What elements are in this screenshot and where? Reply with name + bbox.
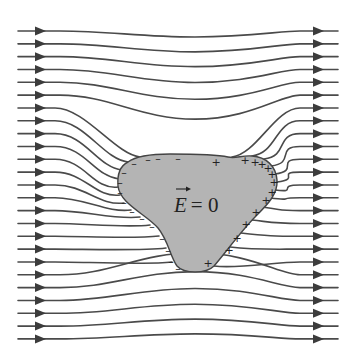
positive-charge-icon: + [241, 218, 250, 231]
arrow-right-icon [313, 180, 324, 189]
arrow-left-icon [35, 52, 46, 61]
negative-charge-icon: – [149, 220, 155, 233]
arrow-left-icon [35, 322, 46, 331]
field-line-right [270, 198, 338, 199]
negative-charge-icon: – [121, 196, 127, 209]
field-line-right [271, 146, 338, 166]
field-line-right [241, 233, 338, 236]
field-line [18, 69, 338, 82]
field-symbol: E [173, 193, 187, 217]
arrow-right-icon [313, 168, 324, 177]
arrow-right-icon [313, 65, 324, 74]
arrow-right-icon [313, 219, 324, 228]
arrow-left-icon [35, 180, 46, 189]
field-line [18, 44, 338, 52]
field-line-right [277, 172, 338, 182]
arrow-right-icon [313, 27, 324, 36]
positive-charge-icon: + [203, 257, 212, 270]
field-equation: E= 0 [173, 193, 218, 217]
arrow-right-icon [313, 116, 324, 125]
positive-charge-icon: + [224, 244, 233, 257]
arrow-right-icon [313, 334, 324, 343]
arrow-right-icon [313, 155, 324, 164]
positive-charge-icon: + [251, 206, 260, 219]
arrow-right-icon [313, 232, 324, 241]
positive-charge-icon: + [240, 154, 249, 167]
arrow-left-icon [35, 206, 46, 215]
negative-charge-icon: – [155, 152, 161, 165]
arrow-left-icon [35, 116, 46, 125]
positive-charge-icon: + [211, 156, 220, 169]
field-line [18, 304, 338, 313]
arrow-right-icon [313, 129, 324, 138]
arrow-right-icon [313, 52, 324, 61]
field-value: = 0 [191, 193, 219, 217]
arrow-left-icon [35, 309, 46, 318]
field-line-right [262, 207, 338, 211]
arrow-right-icon [313, 91, 324, 100]
negative-charge-icon: – [159, 232, 165, 245]
field-line-right [252, 121, 338, 156]
arrow-left-icon [35, 296, 46, 305]
negative-charge-icon: – [168, 255, 174, 268]
field-line [18, 31, 338, 37]
arrow-left-icon [35, 283, 46, 292]
arrow-left-icon [35, 232, 46, 241]
arrow-right-icon [313, 270, 324, 279]
arrow-left-icon [35, 27, 46, 36]
arrow-right-icon [313, 78, 324, 87]
arrow-right-icon [313, 283, 324, 292]
negative-charge-icon: – [175, 262, 181, 275]
arrow-right-icon [313, 257, 324, 266]
negative-charge-icon: – [145, 153, 151, 166]
arrow-left-icon [35, 39, 46, 48]
arrow-left-icon [35, 155, 46, 164]
arrow-right-icon [313, 142, 324, 151]
arrow-right-icon [313, 193, 324, 202]
arrow-right-icon [313, 206, 324, 215]
electric-field-diagram: –––––––––––––––++++++++++++++ E= 0 [0, 0, 354, 364]
arrow-left-icon [35, 65, 46, 74]
arrow-right-icon [313, 103, 324, 112]
field-line-right [275, 185, 338, 191]
negative-charge-icon: – [139, 212, 145, 225]
arrow-left-icon [35, 142, 46, 151]
negative-charge-icon: – [131, 157, 137, 170]
arrow-left-icon [35, 168, 46, 177]
arrow-left-icon [35, 270, 46, 279]
positive-charge-icon: + [261, 194, 270, 207]
arrow-left-icon [35, 219, 46, 228]
positive-charge-icon: + [232, 232, 241, 245]
arrow-left-icon [35, 257, 46, 266]
field-line [18, 288, 338, 300]
arrow-left-icon [35, 334, 46, 343]
negative-charge-icon: – [175, 152, 181, 165]
field-line [18, 57, 338, 67]
arrow-left-icon [35, 103, 46, 112]
negative-charge-icon: – [129, 205, 135, 218]
arrow-right-icon [313, 39, 324, 48]
arrow-right-icon [313, 309, 324, 318]
arrow-right-icon [313, 245, 324, 254]
arrow-right-icon [313, 296, 324, 305]
field-line [18, 319, 338, 326]
field-line-left [18, 172, 120, 195]
field-line-right [232, 108, 338, 157]
arrow-left-icon [35, 91, 46, 100]
arrow-left-icon [35, 245, 46, 254]
field-line-left [18, 198, 131, 211]
field-line [18, 334, 338, 339]
arrow-left-icon [35, 78, 46, 87]
arrow-right-icon [313, 322, 324, 331]
arrow-left-icon [35, 129, 46, 138]
field-line-right [252, 220, 338, 223]
arrow-left-icon [35, 193, 46, 202]
